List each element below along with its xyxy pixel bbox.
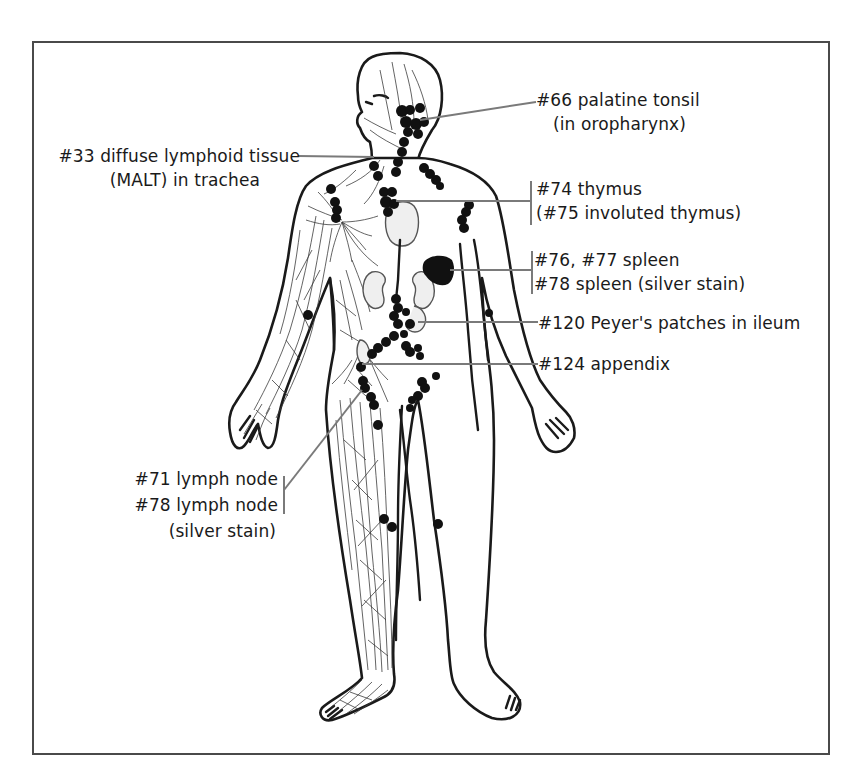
label-lymph-node-line2: #78 lymph node <box>100 495 278 515</box>
label-lymph-node-line1: #71 lymph node <box>100 469 278 489</box>
label-diffuse-lymphoid-line1: #33 diffuse lymphoid tissue <box>44 146 300 166</box>
label-diffuse-lymphoid: #33 diffuse lymphoid tissue (MALT) in tr… <box>44 146 300 190</box>
label-spleen-line2: #78 spleen (silver stain) <box>534 274 745 294</box>
lymphatic-system-diagram <box>0 0 854 782</box>
label-lymph-node-line3: (silver stain) <box>100 521 278 541</box>
label-lymph-node: #71 lymph node #78 lymph node (silver st… <box>100 469 278 541</box>
label-diffuse-lymphoid-line2: (MALT) in trachea <box>44 170 300 190</box>
label-palatine-tonsil-line2: (in oropharynx) <box>536 114 700 134</box>
label-appendix: #124 appendix <box>538 354 670 374</box>
label-thymus-line2: (#75 involuted thymus) <box>536 203 741 223</box>
label-spleen-line1: #76, #77 spleen <box>534 250 745 270</box>
label-palatine-tonsil-line1: #66 palatine tonsil <box>536 90 700 110</box>
label-peyers-patches: #120 Peyer's patches in ileum <box>538 313 800 333</box>
label-palatine-tonsil: #66 palatine tonsil (in oropharynx) <box>536 90 700 134</box>
label-thymus-line1: #74 thymus <box>536 179 741 199</box>
right-kidney <box>363 272 385 309</box>
label-spleen: #76, #77 spleen #78 spleen (silver stain… <box>534 250 745 294</box>
label-peyers-patches-line1: #120 Peyer's patches in ileum <box>538 313 800 333</box>
label-appendix-line1: #124 appendix <box>538 354 670 374</box>
label-thymus: #74 thymus (#75 involuted thymus) <box>536 179 741 223</box>
leader-diffuse-lymphoid <box>298 156 374 157</box>
